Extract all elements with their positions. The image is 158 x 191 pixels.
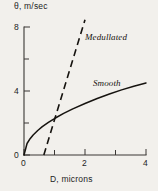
- series-label-smooth: Smooth: [93, 78, 121, 88]
- x-tick-label-2: 2: [82, 158, 87, 168]
- series-label-medullated: Medullated: [85, 32, 127, 42]
- y-tick-label-4: 4: [14, 86, 19, 96]
- x-tick-label-0: 0: [21, 158, 26, 168]
- x-axis-title: D, microns: [50, 174, 93, 184]
- series-smooth-curve: [24, 83, 146, 155]
- y-axis-title: θ, m/sec: [14, 1, 48, 11]
- y-tick-label-8: 8: [14, 22, 19, 32]
- x-tick-label-4: 4: [143, 158, 148, 168]
- y-tick-label-0: 0: [14, 150, 19, 160]
- chart-figure: θ, m/sec D, microns 8 4 0 0 2 4 Medullat…: [0, 0, 158, 191]
- series-medullated-line: [44, 20, 85, 155]
